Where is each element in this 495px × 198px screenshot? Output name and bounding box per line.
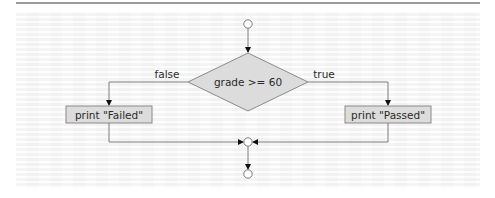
edge-passed-to-merge bbox=[253, 123, 388, 142]
flowchart: grade >= 60 false true print "Failed" pr… bbox=[0, 0, 495, 198]
passed-action-label: print "Passed" bbox=[351, 109, 425, 121]
merge-node bbox=[244, 138, 252, 146]
failed-action-label: print "Failed" bbox=[75, 109, 143, 121]
edge-decision-to-failed bbox=[109, 82, 188, 105]
decision-node: grade >= 60 bbox=[188, 53, 308, 111]
start-node bbox=[244, 20, 252, 28]
failed-action-node: print "Failed" bbox=[66, 106, 152, 123]
false-guard-label: false bbox=[155, 68, 180, 80]
true-guard-label: true bbox=[313, 68, 335, 80]
edge-decision-to-passed bbox=[308, 82, 388, 105]
decision-label: grade >= 60 bbox=[214, 76, 282, 88]
passed-action-node: print "Passed" bbox=[345, 106, 431, 123]
end-node bbox=[244, 170, 252, 178]
edge-failed-to-merge bbox=[109, 123, 243, 142]
